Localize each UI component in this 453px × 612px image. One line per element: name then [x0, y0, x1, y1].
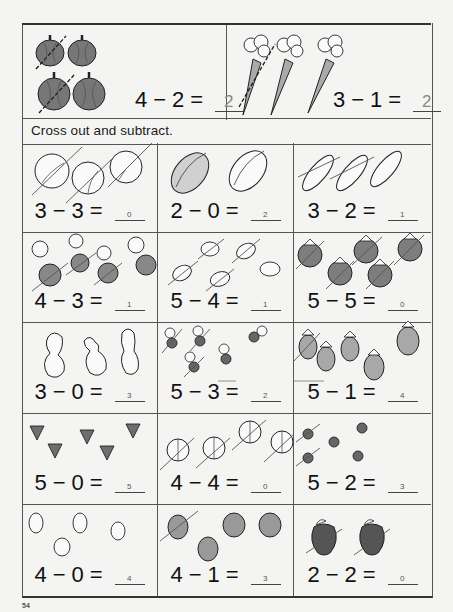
problem-cell: 4 − 0 = 4: [22, 505, 158, 596]
problem-cell: 4 − 4 = 0: [158, 414, 294, 505]
minuend: 2: [307, 562, 320, 588]
answer-blank[interactable]: 3: [115, 391, 145, 402]
melon-icons: [158, 143, 293, 205]
subtrahend: 0: [72, 470, 85, 496]
subtrahend: 2: [345, 470, 358, 496]
minus-sign: −: [326, 470, 340, 496]
problem-equation: 3 − 2 = 1: [294, 198, 431, 224]
minus-sign: −: [351, 87, 365, 113]
apple-icons: [294, 505, 431, 567]
answer-blank[interactable]: 1: [251, 300, 281, 311]
minus-sign: −: [189, 562, 203, 588]
problem-cell: 5 − 0 = 5: [22, 414, 158, 505]
equals-sign: =: [363, 198, 377, 224]
subtrahend: 2: [345, 198, 358, 224]
minuend: 5: [34, 470, 47, 496]
problem-cell: 5 − 2 = 3: [294, 414, 431, 505]
problem-equation: 5 − 2 = 3: [294, 470, 431, 496]
subtrahend: 4: [208, 288, 221, 314]
beet-icons: [158, 323, 293, 385]
problem-equation: 5 − 3 = 2: [158, 379, 293, 405]
answer-blank[interactable]: 0: [115, 210, 145, 221]
equals-sign: =: [90, 562, 104, 588]
page-number: 54: [22, 602, 30, 609]
minus-sign: −: [53, 198, 67, 224]
answer-blank[interactable]: 0: [251, 482, 281, 493]
minuend: 3: [34, 379, 47, 405]
minuend: 4: [34, 562, 47, 588]
minus-sign: −: [53, 470, 67, 496]
equals-sign: =: [226, 288, 240, 314]
problem-equation: 5 − 5 = 0: [294, 288, 431, 314]
equals-sign: =: [226, 198, 240, 224]
problem-cell: 5 − 5 = 0: [294, 233, 431, 323]
problem-equation: 5 − 0 = 5: [22, 470, 157, 496]
problem-cell: 4 − 1 = 3: [158, 505, 294, 596]
pumpkin-icons: [32, 31, 152, 121]
problem-cell: 5 − 1 = 4: [294, 323, 431, 414]
example-pumpkins: 4 − 2 = 2: [22, 25, 227, 120]
example-row: 4 − 2 = 2 3: [22, 23, 431, 120]
minus-sign: −: [189, 379, 203, 405]
equals-sign: =: [363, 379, 377, 405]
minuend: 3: [333, 87, 346, 113]
problem-cell: 2 − 2 = 0: [294, 505, 431, 596]
answer-blank[interactable]: 4: [388, 391, 418, 402]
minus-sign: −: [189, 198, 203, 224]
answer-blank[interactable]: 3: [388, 482, 418, 493]
answer-blank[interactable]: 5: [115, 482, 145, 493]
answer-blank[interactable]: 1: [388, 210, 418, 221]
radish-icons: [22, 233, 157, 295]
example-carrots: 3 − 1 = 2: [227, 25, 431, 120]
cucumber-icons: [294, 143, 431, 205]
problem-cell: 3 − 3 = 0: [22, 143, 158, 233]
cross-out-line: [239, 44, 275, 107]
problem-cell: 5 − 3 = 2: [158, 323, 294, 414]
minuend: 5: [170, 288, 183, 314]
gourd-icons: [22, 323, 157, 385]
equals-sign: =: [90, 288, 104, 314]
equals-sign: =: [226, 470, 240, 496]
problem-equation: 4 − 0 = 4: [22, 562, 157, 588]
answer-blank[interactable]: 2: [413, 93, 441, 112]
pear-icons: [22, 505, 157, 567]
subtrahend: 1: [208, 562, 221, 588]
answer-blank[interactable]: 0: [388, 300, 418, 311]
equals-sign: =: [226, 562, 240, 588]
problem-grid: 3 − 3 = 0 2 − 0 = 2: [22, 143, 431, 596]
tomato-icons: [294, 233, 431, 295]
answer-blank[interactable]: 0: [388, 574, 418, 585]
subtrahend: 2: [345, 562, 358, 588]
minus-sign: −: [189, 470, 203, 496]
problem-equation: 4 − 4 = 0: [158, 470, 293, 496]
equals-sign: =: [226, 379, 240, 405]
minuend: 4: [34, 288, 47, 314]
onion-icons: [158, 414, 293, 476]
minuend: 4: [135, 87, 148, 113]
subtrahend: 0: [72, 379, 85, 405]
answer-blank[interactable]: 2: [251, 391, 281, 402]
answer-blank[interactable]: 3: [251, 574, 281, 585]
answer-blank[interactable]: 1: [115, 300, 145, 311]
problem-equation: 2 − 0 = 2: [158, 198, 293, 224]
subtrahend: 3: [72, 288, 85, 314]
minuend: 3: [34, 198, 47, 224]
minus-sign: −: [326, 288, 340, 314]
problem-equation: 2 − 2 = 0: [294, 562, 431, 588]
equals-sign: =: [190, 87, 204, 113]
subtrahend: 3: [208, 379, 221, 405]
subtrahend: 1: [370, 87, 383, 113]
minuend: 5: [307, 470, 320, 496]
minuend: 5: [170, 379, 183, 405]
problem-equation: 5 − 4 = 1: [158, 288, 293, 314]
subtrahend: 3: [72, 198, 85, 224]
minuend: 4: [170, 470, 183, 496]
answer-blank[interactable]: 2: [251, 210, 281, 221]
minuend: 5: [307, 288, 320, 314]
minuend: 2: [170, 198, 183, 224]
strawberry-icons: [22, 414, 157, 476]
instruction-text: Cross out and subtract.: [31, 123, 173, 138]
answer-blank[interactable]: 4: [115, 574, 145, 585]
minus-sign: −: [53, 379, 67, 405]
subtrahend: 2: [172, 87, 185, 113]
